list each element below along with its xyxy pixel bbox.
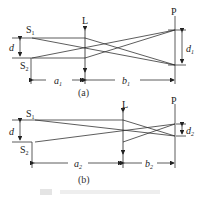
svg-text:a1: a1: [54, 75, 62, 87]
label-d: d: [9, 126, 15, 137]
ray-s1-refracted: [85, 38, 175, 65]
svg-text:d1: d1: [186, 43, 194, 55]
ray-s2: [35, 124, 175, 142]
lens-imaging-diagram: S1 S2 L P d d1 a1 b1 (a): [0, 0, 200, 197]
figure-caption-marker: [40, 189, 52, 195]
svg-text:S2: S2: [20, 60, 29, 72]
ray-s2: [32, 30, 175, 58]
caption-a: (a): [78, 87, 89, 99]
panel-a: [12, 16, 186, 84]
caption-b: (b): [78, 174, 90, 186]
ray-s1: [32, 38, 175, 65]
ray-s2-refracted: [123, 124, 175, 142]
ray-s1: [35, 120, 175, 136]
svg-text:S1: S1: [26, 24, 35, 36]
label-screen: P: [171, 95, 177, 106]
svg-text:b1: b1: [122, 75, 130, 87]
svg-text:S2: S2: [20, 144, 29, 156]
label-lens: L: [122, 99, 128, 110]
panel-b: [12, 104, 186, 168]
panel-b-labels: S1 S2 L P d d2 a2 b2 (b): [9, 95, 194, 195]
svg-text:d2: d2: [186, 125, 194, 137]
label-lens: L: [82, 15, 88, 26]
figure-caption-faint: [60, 190, 160, 194]
ray-s2-refracted: [85, 30, 175, 58]
svg-text:a2: a2: [74, 158, 82, 170]
label-screen: P: [171, 6, 177, 17]
svg-text:b2: b2: [145, 158, 153, 170]
ray-s1-refracted: [123, 120, 175, 136]
label-d: d: [9, 42, 15, 53]
svg-text:S1: S1: [26, 108, 35, 120]
